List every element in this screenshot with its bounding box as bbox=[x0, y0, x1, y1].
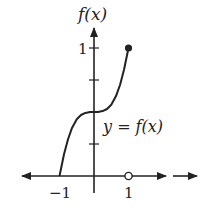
x-tick-label-1: 1 bbox=[124, 184, 134, 202]
function-graph: f(x) 1 y = f(x) −1 1 bbox=[0, 0, 201, 215]
y-tick-label-1: 1 bbox=[78, 40, 88, 58]
curve-label: y = f(x) bbox=[102, 117, 163, 136]
x-tick-label-neg1: −1 bbox=[49, 184, 71, 202]
closed-endpoint-dot bbox=[125, 44, 132, 51]
open-endpoint-circle bbox=[125, 172, 132, 179]
y-axis-label: f(x) bbox=[76, 4, 107, 24]
